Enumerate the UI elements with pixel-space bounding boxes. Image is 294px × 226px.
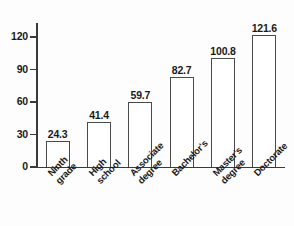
bar-chart: 0306090120 24.341.459.782.7100.8121.6 Ni… [0, 0, 294, 226]
x-axis-labels: NinthgradeHighschoolAssociatedegreeBache… [37, 169, 285, 226]
y-tick-label: 120 [2, 30, 28, 42]
bar-value-label: 82.7 [172, 64, 192, 76]
y-tick-label: 90 [2, 63, 28, 75]
bar-value-label: 59.7 [131, 89, 151, 101]
y-tick-mark [30, 134, 37, 135]
y-tick-label: 60 [2, 95, 28, 107]
y-tick-mark [30, 36, 37, 37]
y-tick-mark [30, 166, 37, 167]
y-tick-label: 0 [2, 160, 28, 172]
y-tick-mark [30, 69, 37, 70]
bar-value-label: 41.4 [89, 109, 109, 121]
y-tick-label: 30 [2, 128, 28, 140]
bar-value-label: 121.6 [252, 22, 277, 34]
bar-value-label: 100.8 [210, 45, 235, 57]
bar-value-label: 24.3 [48, 128, 68, 140]
y-tick-mark [30, 101, 37, 102]
